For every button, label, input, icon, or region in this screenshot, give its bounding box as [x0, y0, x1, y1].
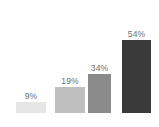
- bar-group-3: 34%: [88, 74, 111, 113]
- bar-value-label-2: 19%: [61, 76, 78, 86]
- bar-2: [55, 87, 85, 113]
- bar-value-label-3: 34%: [91, 63, 108, 73]
- plot-area: 9% 19% 34% 54%: [0, 0, 159, 127]
- bar-value-label-1: 9%: [25, 91, 38, 101]
- bar-chart: 9% 19% 34% 54%: [0, 0, 159, 127]
- bar-value-label-4: 54%: [128, 29, 145, 39]
- bar-1: [16, 102, 46, 113]
- bar-group-1: 9%: [16, 102, 46, 113]
- bar-3: [88, 74, 111, 113]
- bar-group-2: 19%: [55, 87, 85, 113]
- bar-group-4: 54%: [122, 40, 151, 113]
- bar-4: [122, 40, 151, 113]
